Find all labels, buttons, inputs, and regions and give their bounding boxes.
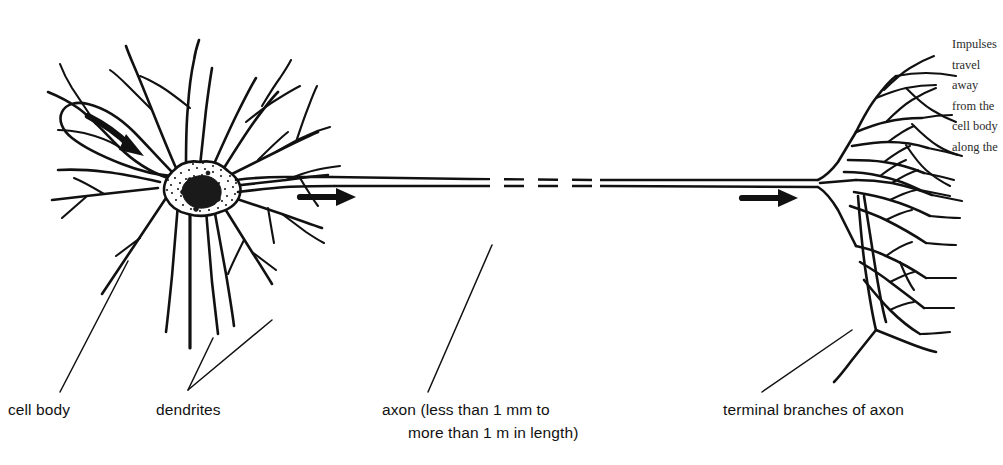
cell-body-soma <box>164 161 241 215</box>
label-cell-body: cell body <box>8 401 70 418</box>
leader-terminal-branches <box>762 330 852 392</box>
margin-body-text: Impulses travel away from the cell body … <box>952 34 1003 158</box>
margin-text-line: travel <box>952 55 1003 76</box>
margin-text-line: away <box>952 75 1003 96</box>
label-terminal-branches: terminal branches of axon <box>723 401 904 418</box>
margin-text-line: Impulses <box>952 34 1003 55</box>
axon <box>236 177 818 192</box>
leader-cell-body <box>60 261 128 392</box>
label-axon-line1: axon (less than 1 mm to <box>382 401 550 418</box>
leader-axon <box>428 245 492 392</box>
terminal-branch-tree <box>818 56 962 382</box>
margin-text-line: cell body <box>952 116 1003 137</box>
arrow-right-distal-axon <box>742 189 798 207</box>
margin-text-line: from the <box>952 96 1003 117</box>
label-dendrites: dendrites <box>156 401 221 418</box>
label-axon-line2: more than 1 m in length) <box>408 424 578 441</box>
margin-text-line: along the <box>952 137 1003 158</box>
leader-dendrites-2 <box>188 320 272 390</box>
axon-break-dashes <box>470 179 600 186</box>
leader-dendrites <box>188 338 213 390</box>
